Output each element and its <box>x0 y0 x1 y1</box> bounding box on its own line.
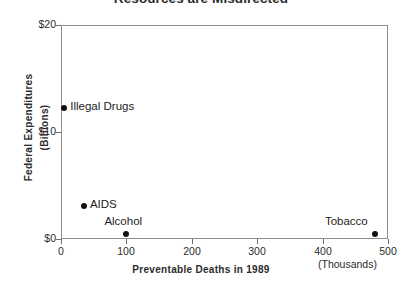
scatter-chart: Resources are Misdirected $0$10$20010020… <box>0 0 402 285</box>
x-tick-mark <box>192 239 193 244</box>
data-point-label: Illegal Drugs <box>70 100 134 112</box>
data-point-label: Alcohol <box>104 215 142 227</box>
data-point-label: Tobacco <box>325 215 368 227</box>
x-tick-label: 100 <box>96 245 156 257</box>
x-tick-label: 400 <box>293 245 353 257</box>
x-axis-units: (Thousands) <box>318 258 377 270</box>
y-tick-label: $20 <box>6 18 56 30</box>
y-axis-title: Federal Expenditures <box>23 38 34 218</box>
data-point <box>81 203 87 209</box>
y-tick-label: $0 <box>6 232 56 244</box>
x-tick-label: 300 <box>227 245 287 257</box>
chart-title: Resources are Misdirected <box>0 0 402 6</box>
x-tick-mark <box>126 239 127 244</box>
x-tick-label: 0 <box>31 245 91 257</box>
data-point <box>123 231 129 237</box>
x-tick-mark <box>388 239 389 244</box>
data-points-layer: Illegal DrugsAIDSAlcoholTobacco <box>61 25 388 239</box>
data-point <box>372 231 378 237</box>
x-tick-label: 200 <box>162 245 222 257</box>
x-tick-label: 500 <box>358 245 402 257</box>
x-tick-mark <box>323 239 324 244</box>
x-tick-mark <box>61 239 62 244</box>
x-tick-mark <box>257 239 258 244</box>
y-axis-units: (Billions) <box>39 38 50 218</box>
data-point-label: AIDS <box>90 198 117 210</box>
data-point <box>61 105 67 111</box>
